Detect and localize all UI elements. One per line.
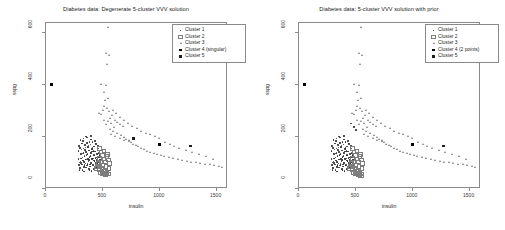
data-point (102, 109, 104, 111)
data-point (143, 148, 145, 150)
data-point (365, 130, 367, 132)
data-point (87, 163, 89, 165)
chart-panel-right: Diabetes data: 5-cluster VVV solution wi… (253, 0, 505, 230)
data-point (190, 161, 192, 163)
data-point (209, 163, 211, 165)
data-point (336, 152, 338, 154)
chart-panel-left: Diabetes data: Degenerate 5-cluster VVV … (0, 0, 252, 230)
data-point (341, 150, 343, 152)
data-point (378, 138, 380, 140)
filled-square-icon (176, 55, 185, 58)
y-tick-label: 600 (27, 20, 33, 38)
data-point (114, 135, 116, 137)
data-point (156, 153, 158, 155)
data-point (79, 169, 81, 171)
data-point (221, 166, 223, 168)
data-point (341, 159, 343, 161)
data-point (448, 161, 450, 163)
data-point (107, 97, 109, 99)
data-point (86, 137, 88, 139)
data-point (357, 99, 359, 101)
data-point (426, 145, 428, 147)
data-point (425, 157, 427, 159)
filled-circle-icon (176, 30, 185, 32)
legend-item: Cluster 3 (429, 40, 495, 47)
data-point (168, 156, 170, 158)
y-tick-label: 600 (280, 20, 286, 38)
data-point (103, 91, 105, 93)
data-point (443, 161, 445, 163)
data-point (399, 150, 401, 152)
legend-label: Cluster 5 (185, 53, 205, 60)
legend-label: Cluster 1 (185, 27, 205, 34)
data-point (185, 149, 187, 151)
data-point (353, 83, 355, 85)
data-point (154, 135, 156, 137)
data-point (360, 97, 362, 99)
data-point (92, 141, 94, 143)
filled-square-icon (176, 49, 185, 52)
y-tick-mark (295, 84, 298, 85)
data-point (87, 153, 89, 155)
x-tick-mark (469, 188, 470, 191)
data-point (103, 119, 105, 121)
data-point (452, 162, 454, 164)
data-point (434, 159, 436, 161)
data-point (78, 164, 80, 166)
x-axis-title-left: insulin (45, 203, 227, 209)
data-point (149, 133, 151, 135)
data-point (81, 143, 83, 145)
data-point (335, 140, 337, 142)
data-point (364, 114, 366, 116)
data-point (88, 159, 90, 161)
data-point (218, 165, 220, 167)
data-point (89, 166, 91, 168)
data-point (406, 152, 408, 154)
data-point (417, 141, 419, 143)
data-point (119, 116, 121, 118)
data-point (158, 137, 160, 139)
data-point (96, 153, 98, 155)
data-point (345, 158, 347, 160)
data-point (131, 125, 133, 127)
data-point (132, 137, 135, 140)
legend-item: Cluster 2 (429, 34, 495, 41)
data-point (83, 152, 85, 154)
data-point (94, 140, 96, 142)
data-point (474, 166, 476, 168)
data-point (120, 134, 122, 136)
data-point (127, 122, 129, 124)
data-point (86, 142, 88, 144)
data-point (343, 144, 345, 146)
y-tick-mark (295, 136, 298, 137)
data-point (84, 149, 86, 151)
data-point (342, 166, 344, 168)
data-point (431, 147, 433, 149)
x-tick-mark (102, 188, 103, 191)
data-point (344, 170, 346, 172)
data-point (128, 140, 130, 142)
data-point (411, 137, 413, 139)
y-tick-label: 400 (280, 72, 286, 90)
data-point (407, 135, 409, 137)
data-point (442, 145, 445, 148)
data-point (336, 138, 338, 140)
data-point (191, 151, 193, 153)
legend-item: Cluster 1 (176, 27, 242, 34)
data-point (458, 155, 460, 157)
data-point (393, 147, 395, 149)
data-point (375, 125, 377, 127)
data-point (333, 162, 335, 164)
data-point (334, 149, 336, 151)
y-axis-title-right: sspg (264, 84, 270, 95)
data-point (362, 117, 364, 119)
data-point (396, 148, 398, 150)
data-point (80, 162, 82, 164)
open-square-icon (176, 35, 185, 39)
data-point (90, 144, 92, 146)
data-point (122, 125, 124, 127)
data-point (84, 164, 86, 166)
y-tick-mark (42, 84, 45, 85)
data-point (87, 146, 89, 148)
data-point (409, 153, 411, 155)
